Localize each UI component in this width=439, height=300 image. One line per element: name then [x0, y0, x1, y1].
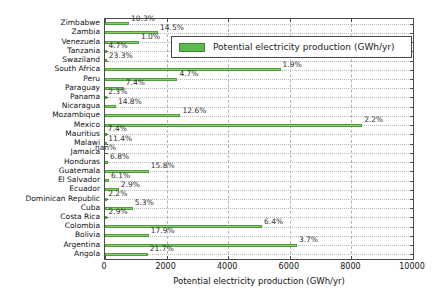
country-label: Mauritius	[65, 129, 100, 138]
h-gridline	[105, 190, 413, 191]
y-tick	[410, 61, 413, 62]
y-tick	[410, 236, 413, 237]
bar	[105, 96, 107, 99]
h-gridline	[105, 97, 413, 98]
bar-value-label: 6.1%	[111, 171, 130, 180]
bar-value-label: 2.3%	[108, 87, 127, 96]
x-tick	[413, 256, 414, 259]
legend: Potential electricity production (GWh/yr…	[171, 36, 412, 58]
x-tick-label: 4000	[217, 262, 237, 271]
country-label: Nicaragua	[62, 101, 100, 110]
x-tick	[105, 19, 106, 22]
country-label: Peru	[83, 74, 100, 83]
x-tick	[105, 256, 106, 259]
country-label: Honduras	[64, 157, 100, 166]
bar-value-label: 2.2%	[364, 115, 383, 124]
bar-value-label: 1.9%	[283, 60, 302, 69]
country-label: Zambia	[72, 27, 100, 36]
y-tick	[105, 153, 108, 154]
x-tick-labels: 0200040006000800010000	[0, 262, 439, 274]
h-gridline	[105, 254, 413, 255]
country-label: Colombia	[65, 221, 100, 230]
h-gridline	[105, 153, 413, 154]
h-gridline	[105, 107, 413, 108]
bar-value-label: 12.6%	[182, 106, 206, 115]
h-gridline	[105, 144, 413, 145]
y-tick	[410, 33, 413, 34]
bar	[105, 124, 362, 127]
h-gridline	[105, 88, 413, 89]
h-gridline	[105, 236, 413, 237]
y-tick	[410, 79, 413, 80]
h-gridline	[105, 217, 413, 218]
country-label: Mozambique	[52, 110, 100, 119]
x-tick	[228, 19, 229, 22]
country-label: Zimbabwe	[61, 18, 100, 27]
country-label: Angola	[74, 249, 100, 258]
country-label: Swaziland	[62, 55, 100, 64]
bar	[105, 59, 107, 62]
bar-value-label: 17.9%	[151, 226, 175, 235]
bar-value-label: 4.7%	[179, 69, 198, 78]
country-label: Costa Rica	[60, 212, 100, 221]
bar-value-label: 15.8%	[151, 161, 175, 170]
bar-value-label: 7.4%	[126, 78, 145, 87]
x-tick	[351, 19, 352, 22]
bar-value-label: 14.5%	[160, 23, 184, 32]
country-label: South Africa	[54, 64, 100, 73]
y-tick	[410, 97, 413, 98]
bar	[105, 161, 108, 164]
bar-value-label: 23.3%	[109, 51, 133, 60]
bar-chart-figure: ZimbabweZambiaVenezuelaTanzaniaSwaziland…	[0, 0, 439, 300]
y-tick	[410, 227, 413, 228]
bar	[105, 50, 107, 53]
country-label: Guatemala	[59, 166, 100, 175]
country-label: Ecuador	[69, 184, 100, 193]
bar	[105, 244, 297, 247]
bar-value-label: 6.4%	[264, 217, 283, 226]
country-labels: ZimbabweZambiaVenezuelaTanzaniaSwaziland…	[0, 18, 102, 260]
x-tick	[167, 256, 168, 259]
y-tick	[410, 217, 413, 218]
h-gridline	[105, 134, 413, 135]
bar-value-label: 10.3%	[131, 14, 155, 23]
y-tick	[410, 88, 413, 89]
bar-value-label: 2.9%	[121, 180, 140, 189]
y-tick	[410, 199, 413, 200]
h-gridline	[105, 208, 413, 209]
bar-value-label: 11.4%	[108, 134, 132, 143]
country-label: Bolivia	[75, 230, 100, 239]
country-label: Argentina	[63, 240, 100, 249]
x-tick	[290, 19, 291, 22]
x-tick	[351, 256, 352, 259]
legend-label: Potential electricity production (GWh/yr…	[213, 42, 395, 52]
bar	[105, 22, 129, 25]
bar	[105, 179, 109, 182]
bar-value-label: nan%	[95, 143, 116, 152]
x-tick	[167, 19, 168, 22]
bar-value-label: 2.9%	[109, 207, 128, 216]
h-gridline	[105, 171, 413, 172]
bar	[105, 114, 180, 117]
country-label: Dominican Republic	[25, 194, 100, 203]
y-tick	[410, 70, 413, 71]
h-gridline	[105, 61, 413, 62]
bar-value-label: 4.7%	[109, 41, 128, 50]
y-tick	[410, 144, 413, 145]
legend-swatch-icon	[179, 43, 205, 52]
country-label: Panama	[70, 92, 100, 101]
y-tick	[410, 116, 413, 117]
y-tick	[410, 245, 413, 246]
bar-value-label: 21.7%	[150, 244, 174, 253]
x-tick	[228, 256, 229, 259]
x-tick	[413, 19, 414, 22]
bar-value-label: 1.0%	[141, 32, 160, 41]
y-tick	[410, 190, 413, 191]
bar-value-label: 3.7%	[299, 235, 318, 244]
country-label: Tanzania	[67, 46, 100, 55]
bar	[105, 253, 148, 256]
y-tick	[410, 153, 413, 154]
bar-value-label: 5.3%	[135, 198, 154, 207]
h-gridline	[105, 181, 413, 182]
y-tick	[410, 24, 413, 25]
